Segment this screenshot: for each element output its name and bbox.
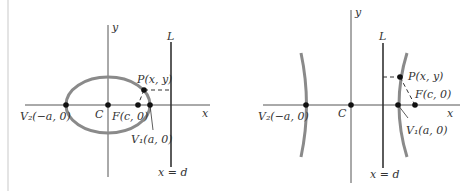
directrix-equation: x = d	[158, 166, 187, 179]
focus-label: F(c, 0)	[111, 110, 148, 123]
point-p-label: P(x, y)	[136, 73, 172, 86]
vertex-v2-point	[303, 102, 309, 108]
focus-label: F(c, 0)	[414, 88, 451, 101]
conic-figures: y x L x = d V₂(−a, 0) C F(c, 0) V₁(a, 0)…	[0, 0, 465, 191]
directrix-label: L	[166, 30, 174, 43]
vertex-v1-label: V₁(a, 0)	[131, 133, 173, 146]
hyperbola-figure: y x L x = d V₂(−a, 0) C P(x, y) F(c, 0) …	[258, 6, 460, 183]
point-p	[397, 74, 403, 80]
y-axis-label: y	[354, 6, 362, 19]
directrix-label: L	[378, 30, 386, 43]
vertex-v1-point	[147, 102, 153, 108]
center-point	[348, 102, 354, 108]
point-p-label: P(x, y)	[407, 70, 443, 83]
focus-point	[412, 102, 418, 108]
directrix-equation: x = d	[370, 168, 399, 181]
vertex-v2-label: V₂(−a, 0)	[258, 110, 309, 123]
vertex-v1-point	[395, 102, 401, 108]
y-axis-label: y	[111, 21, 119, 34]
x-axis-label: x	[447, 107, 454, 120]
center-label: C	[338, 107, 347, 120]
ellipse-figure: y x L x = d V₂(−a, 0) C F(c, 0) V₁(a, 0)…	[20, 21, 210, 179]
vertex-v2-label: V₂(−a, 0)	[20, 110, 71, 123]
center-label: C	[95, 108, 104, 121]
v1-leader-line	[150, 105, 153, 130]
vertex-v1-label: V₁(a, 0)	[406, 124, 448, 137]
vertex-v2-point	[63, 102, 69, 108]
x-axis-label: x	[202, 107, 209, 120]
focus-point	[135, 102, 141, 108]
point-p	[141, 87, 147, 93]
center-point	[105, 102, 111, 108]
